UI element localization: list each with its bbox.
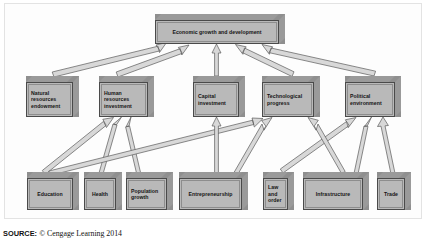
node-label: Education <box>35 191 65 197</box>
node-front-face: Humanresourcesinvestment <box>99 82 148 117</box>
node-population-growth[interactable]: Populationgrowth <box>126 172 173 210</box>
node-law-and-order[interactable]: Lawandorder <box>263 172 294 210</box>
node-label: Populationgrowth <box>127 188 162 201</box>
node-front-face: Health <box>84 178 116 210</box>
node-trade[interactable]: Trade <box>377 172 411 210</box>
node-side-face <box>314 76 320 117</box>
node-natural-resources-endowment[interactable]: Naturalresourcesendowment <box>26 76 79 117</box>
node-front-face: Naturalresourcesendowment <box>26 82 73 117</box>
node-label: Politicalenvironment <box>346 93 386 106</box>
node-side-face <box>242 172 248 210</box>
node-capital-investment[interactable]: Capitalinvestment <box>193 76 245 117</box>
node-side-face <box>279 14 285 44</box>
node-front-face: Technologicalprogress <box>262 82 314 117</box>
node-label: Infrastructure <box>314 191 352 197</box>
source-caption: SOURCE: © Cengage Learning 2014 <box>3 229 122 238</box>
node-label: Lawandorder <box>264 184 286 203</box>
node-entrepreneurship[interactable]: Entrepreneurship <box>179 172 248 210</box>
node-side-face <box>363 172 369 210</box>
node-education[interactable]: Education <box>27 172 79 210</box>
node-label: Health <box>90 191 110 197</box>
node-side-face <box>405 172 411 210</box>
node-economic-growth[interactable]: Economic growth and development <box>155 14 285 44</box>
node-side-face <box>288 172 294 210</box>
node-side-face <box>148 76 154 117</box>
node-label: Naturalresourcesendowment <box>27 90 64 109</box>
node-side-face <box>239 76 245 117</box>
arrow-political-to-top <box>262 45 376 77</box>
node-front-face: Economic growth and development <box>155 20 279 44</box>
arrow-infrastructure-to-political <box>354 117 372 174</box>
source-label: SOURCE: <box>3 229 37 238</box>
arrow-education-to-technological <box>49 118 263 176</box>
node-front-face: Lawandorder <box>263 178 288 210</box>
node-side-face <box>73 172 79 210</box>
node-front-face: Education <box>27 178 73 210</box>
node-front-face: Politicalenvironment <box>345 82 395 117</box>
node-front-face: Infrastructure <box>303 178 363 210</box>
arrow-entrepreneurship-to-capital <box>212 117 221 174</box>
node-front-face: Capitalinvestment <box>193 82 239 117</box>
node-front-face: Populationgrowth <box>126 178 167 210</box>
node-health[interactable]: Health <box>84 172 122 210</box>
arrow-technological-to-top <box>236 45 295 77</box>
arrow-trade-to-political <box>378 117 396 174</box>
source-value: © Cengage Learning 2014 <box>39 229 122 238</box>
node-side-face <box>395 76 401 117</box>
node-label: Trade <box>382 191 400 197</box>
node-side-face <box>167 172 173 210</box>
node-label: Technologicalprogress <box>263 93 306 106</box>
node-political-environment[interactable]: Politicalenvironment <box>345 76 401 117</box>
arrow-population-to-human <box>126 117 141 175</box>
node-side-face <box>116 172 122 210</box>
figure-stage: .arw { fill: #d8d8d8; stroke: #5a5a5a; s… <box>0 0 426 247</box>
node-human-resources-investment[interactable]: Humanresourcesinvestment <box>99 76 154 117</box>
node-label: Economic growth and development <box>170 29 263 35</box>
node-label: Humanresourcesinvestment <box>100 90 136 109</box>
node-label: Entrepreneurship <box>186 191 234 197</box>
node-side-face <box>73 76 79 117</box>
node-front-face: Entrepreneurship <box>179 178 242 210</box>
node-label: Capitalinvestment <box>194 93 230 106</box>
node-infrastructure[interactable]: Infrastructure <box>303 172 369 210</box>
node-technological-progress[interactable]: Technologicalprogress <box>262 76 320 117</box>
arrow-capital-to-top <box>212 44 221 76</box>
node-front-face: Trade <box>377 178 405 210</box>
